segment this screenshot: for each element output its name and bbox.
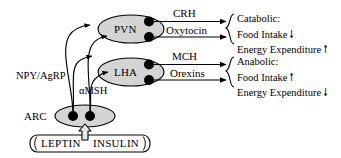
outcome-arrow-anabolic-energy-expenditure: ↓	[323, 87, 329, 98]
outcome-line-catabolic-food-intake: Food Intake↓	[237, 29, 297, 41]
outcome-heading-catabolic: Catabolic:	[237, 14, 280, 25]
outcome-arrow-catabolic-food-intake: ↓	[289, 29, 295, 40]
projection-label-npy-agrp: NPY/AgRP	[16, 71, 66, 82]
outcome-text-anabolic-energy-expenditure: Energy Expenditure	[237, 87, 321, 98]
outcome-line-anabolic-food-intake: Food Intake↑	[237, 72, 297, 84]
lha-neuron-upper-dot	[144, 60, 154, 70]
node-label-lha: LHA	[114, 67, 137, 78]
outcome-text-anabolic-food-intake: Food Intake	[237, 72, 287, 83]
outcome-text-catabolic-food-intake: Food Intake	[237, 29, 287, 40]
outcome-text-catabolic-energy-expenditure: Energy Expenditure	[237, 44, 321, 55]
efferent-label-orexins: Orexins	[170, 68, 205, 79]
lha-neuron-lower-dot	[144, 75, 154, 85]
efferent-label-crh: CRH	[173, 8, 196, 19]
node-label-arc: ARC	[24, 111, 47, 122]
brace-anabolic	[226, 57, 234, 87]
hormone-label-leptin: LEPTIN	[41, 138, 81, 149]
outcome-arrow-catabolic-energy-expenditure: ↑	[323, 44, 329, 55]
arc-neuron-left-dot	[68, 111, 78, 121]
projection-arc-to-pvn-npy	[66, 25, 90, 112]
efferent-label-mch: MCH	[172, 51, 197, 62]
diagram-canvas: PVN LHA ARC NPY/AgRP αMSH CRH Oxytocin M…	[0, 0, 341, 158]
pvn-neuron-lower-dot	[144, 32, 154, 42]
outcome-arrow-anabolic-food-intake: ↑	[289, 72, 295, 83]
pvn-neuron-upper-dot	[144, 17, 154, 27]
brace-catabolic	[226, 14, 234, 44]
outcome-line-anabolic-energy-expenditure: Energy Expenditure↓	[237, 87, 330, 99]
projection-label-amsh: αMSH	[79, 86, 107, 97]
efferent-label-oxytocin: Oxytocin	[166, 25, 207, 36]
outcome-line-catabolic-energy-expenditure: Energy Expenditure↑	[237, 44, 330, 56]
arc-neuron-right-dot	[85, 111, 95, 121]
hormone-label-insulin: INSULIN	[93, 138, 139, 149]
outcome-heading-anabolic: Anabolic:	[237, 57, 278, 68]
node-label-pvn: PVN	[114, 24, 137, 35]
